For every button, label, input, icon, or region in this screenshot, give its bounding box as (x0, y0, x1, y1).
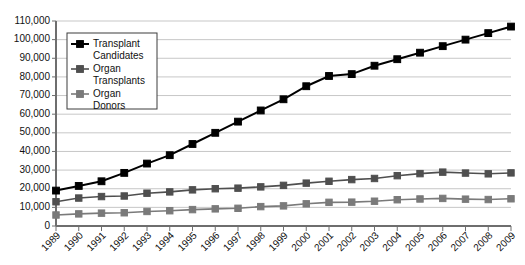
legend-label: Organ (93, 63, 121, 74)
x-axis-tick-labels: 1989199019911992199319941995199619971998… (39, 229, 518, 253)
legend-label: Organ (93, 88, 121, 99)
legend-label: Donors (93, 100, 125, 111)
y-axis-tick-label: 50,000 (19, 126, 50, 137)
data-point-marker (462, 36, 469, 43)
data-point-marker (53, 212, 59, 218)
data-point-marker (326, 73, 333, 80)
x-axis-tick-label: 1991 (84, 229, 108, 253)
data-point-marker (257, 107, 264, 114)
data-point-marker (76, 195, 82, 201)
data-point-marker (75, 183, 82, 190)
data-point-marker (394, 56, 401, 63)
x-axis-tickmarks (56, 226, 511, 231)
data-point-marker (144, 190, 150, 196)
data-point-marker (121, 210, 127, 216)
data-point-marker (303, 180, 309, 186)
data-point-marker (440, 195, 446, 201)
data-point-marker (280, 182, 286, 188)
x-axis-tick-label: 2003 (357, 229, 381, 253)
y-axis-tick-label: 110,000 (15, 15, 51, 26)
chart-container: 110,000100,00090,00080,00070,00060,00050… (0, 0, 525, 265)
x-axis-tick-label: 1999 (266, 229, 290, 253)
x-axis-tick-label: 2004 (380, 229, 404, 253)
y-axis-tick-label: 90,000 (19, 52, 50, 63)
data-point-marker (121, 193, 127, 199)
data-point-marker (462, 196, 468, 202)
data-point-marker (485, 196, 491, 202)
data-point-marker (189, 206, 195, 212)
legend-marker-square (77, 66, 84, 73)
data-point-marker (258, 203, 264, 209)
x-axis-tick-label: 1992 (107, 229, 131, 253)
x-axis-tick-label: 2005 (403, 229, 427, 253)
data-point-marker (235, 185, 241, 191)
data-point-marker (394, 172, 400, 178)
legend-label: Transplants (93, 75, 145, 86)
x-axis-tick-label: 1993 (130, 229, 154, 253)
data-point-marker (303, 83, 310, 90)
data-point-marker (76, 211, 82, 217)
data-point-marker (485, 30, 492, 37)
x-axis-tick-label: 1996 (198, 229, 222, 253)
data-point-marker (121, 169, 128, 176)
x-axis-tick-label: 2002 (335, 229, 359, 253)
x-axis-tick-label: 2008 (471, 229, 495, 253)
data-point-marker (212, 129, 219, 136)
x-axis-tick-label: 2000 (289, 229, 313, 253)
data-point-marker (144, 160, 151, 167)
y-axis-tick-labels: 110,000100,00090,00080,00070,00060,00050… (14, 15, 56, 231)
data-point-marker (235, 118, 242, 125)
x-axis-tick-label: 1998 (244, 229, 268, 253)
legend-label: Candidates (93, 50, 144, 61)
x-axis-tick-label: 1989 (39, 229, 63, 253)
x-axis-tick-label: 2009 (494, 229, 518, 253)
data-point-marker (349, 176, 355, 182)
data-point-marker (212, 206, 218, 212)
data-point-marker (348, 71, 355, 78)
x-axis-tick-label: 2001 (312, 229, 336, 253)
x-axis-tick-label: 1995 (175, 229, 199, 253)
data-point-marker (440, 169, 446, 175)
data-point-marker (166, 152, 173, 159)
y-axis-tick-label: 70,000 (19, 89, 50, 100)
data-point-marker (349, 199, 355, 205)
data-point-marker (417, 170, 423, 176)
data-point-marker (485, 171, 491, 177)
chart-legend: TransplantCandidatesOrganTransplantsOrga… (67, 33, 157, 111)
data-point-marker (280, 203, 286, 209)
data-point-marker (439, 43, 446, 50)
x-axis-tick-label: 2006 (426, 229, 450, 253)
data-point-marker (235, 205, 241, 211)
data-point-marker (417, 196, 423, 202)
y-axis-tick-label: 20,000 (19, 182, 50, 193)
data-point-marker (189, 187, 195, 193)
data-point-marker (280, 96, 287, 103)
x-axis-tick-label: 1997 (221, 229, 245, 253)
data-point-marker (371, 175, 377, 181)
data-point-marker (394, 197, 400, 203)
x-axis-tick-label: 1994 (153, 229, 177, 253)
legend-label: Transplant (93, 38, 140, 49)
legend-marker-square (77, 91, 84, 98)
data-point-marker (189, 141, 196, 148)
data-point-marker (462, 170, 468, 176)
y-axis-tick-label: 10,000 (19, 201, 50, 212)
data-point-marker (371, 62, 378, 69)
data-point-marker (258, 184, 264, 190)
legend-marker-square (77, 41, 84, 48)
data-point-marker (53, 199, 59, 205)
data-point-marker (417, 49, 424, 56)
data-point-marker (167, 208, 173, 214)
data-point-marker (508, 23, 515, 30)
line-chart: 110,000100,00090,00080,00070,00060,00050… (0, 0, 525, 265)
x-axis-tick-label: 1990 (62, 229, 86, 253)
data-point-marker (508, 170, 514, 176)
y-axis-tick-label: 60,000 (19, 108, 50, 119)
data-point-marker (144, 208, 150, 214)
data-point-marker (326, 178, 332, 184)
y-axis-tick-label: 80,000 (19, 71, 50, 82)
data-point-marker (167, 189, 173, 195)
data-point-marker (98, 193, 104, 199)
data-point-marker (303, 201, 309, 207)
data-point-marker (98, 210, 104, 216)
